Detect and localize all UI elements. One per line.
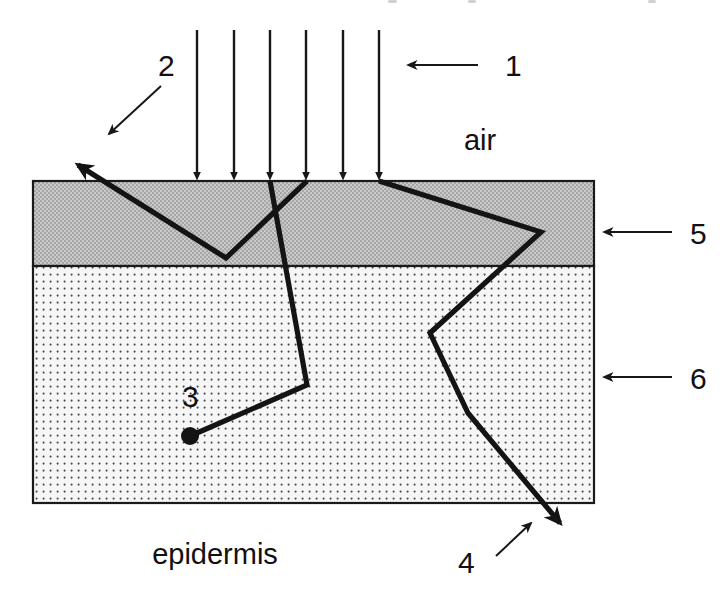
- callout-5: 5: [604, 217, 707, 250]
- callout-2: 2: [109, 49, 175, 134]
- absorption-site-dot: [181, 427, 199, 445]
- medium-label-epidermis: epidermis: [152, 538, 278, 570]
- callout-3: 3: [182, 380, 199, 413]
- callout-4-leader: [496, 523, 531, 556]
- callout-1: 1: [408, 49, 522, 82]
- lower-layer-rect: [33, 266, 594, 503]
- incident-beam-group: [197, 30, 379, 176]
- callout-4-label: 4: [458, 546, 475, 579]
- callout-6: 6: [604, 362, 707, 395]
- callout-3-label: 3: [182, 380, 199, 413]
- tissue-layers: [33, 181, 594, 503]
- figure-canvas: 1 2 3 4 5 6 air epidermis: [0, 0, 727, 598]
- clipped-caption-artifact: [388, 0, 656, 3]
- callout-1-label: 1: [505, 49, 522, 82]
- callout-2-label: 2: [158, 49, 175, 82]
- callout-2-leader: [109, 86, 161, 134]
- callout-6-label: 6: [690, 362, 707, 395]
- callout-4: 4: [458, 523, 531, 579]
- skin-light-interaction-diagram: 1 2 3 4 5 6 air epidermis: [0, 0, 727, 598]
- callout-5-label: 5: [690, 217, 707, 250]
- medium-label-air: air: [464, 124, 497, 156]
